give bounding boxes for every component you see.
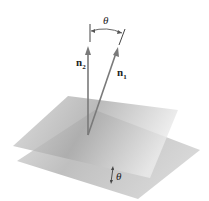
n2-label: n2	[76, 56, 86, 71]
bottom-theta-label: θ	[116, 170, 122, 182]
normal-n1-arrowhead-icon	[113, 47, 119, 57]
top-theta-label: θ	[103, 14, 109, 26]
top-angle-arc	[91, 29, 122, 33]
n1-extension-line	[119, 29, 125, 45]
dihedral-angle-diagram: θ n2 n1 θ	[0, 0, 209, 201]
top-angle-arrowhead-icon	[117, 30, 122, 34]
n1-label: n1	[117, 66, 127, 81]
top-angle-arrowhead-icon	[91, 29, 95, 33]
normal-n2-arrowhead-icon	[85, 46, 91, 55]
